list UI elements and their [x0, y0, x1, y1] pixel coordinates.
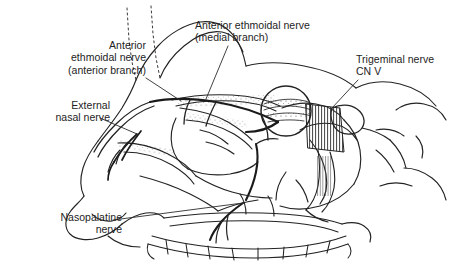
label-nasopalatine-nerve: Nasopalatine nerve: [18, 211, 122, 236]
leader-trigeminal: [332, 80, 358, 108]
label-external-nasal-nerve: External nasal nerve: [6, 99, 110, 124]
label-anterior-ethmoidal-medial: Anterior ethmoidal nerve (medial branch): [195, 19, 355, 44]
leader-nasopalatine: [113, 203, 243, 220]
anatomy-figure: Anterior ethmoidal nerve (anterior branc…: [0, 0, 449, 280]
label-trigeminal-nerve: Trigeminal nerve CN V: [356, 53, 448, 78]
external-nasal-nerve-path: [108, 131, 141, 180]
label-anterior-ethmoidal-anterior: Anterior ethmoidal nerve (anterior branc…: [6, 39, 146, 76]
leader-anterior-ethmoidal-anterior: [146, 78, 181, 101]
maxillary-teeth-row: [147, 236, 351, 260]
leader-anterior-ethmoidal-medial: [206, 46, 228, 99]
nasopalatine-branches: [216, 139, 278, 243]
posterior-skull-contours: [246, 63, 446, 200]
